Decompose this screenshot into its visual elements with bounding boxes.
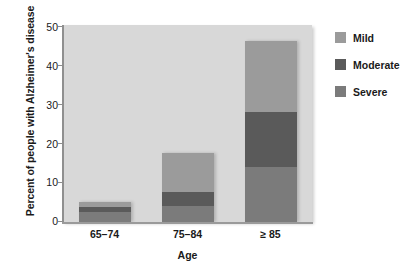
bar-segment-mild: [245, 41, 297, 112]
y-tick-label-50: 50: [36, 22, 58, 32]
bar-65-74: [79, 202, 131, 222]
legend-item-mild: Mild: [335, 26, 400, 49]
legend-item-severe: Severe: [335, 80, 400, 103]
bar-segment-mild: [162, 153, 214, 192]
bar-segment-moderate: [79, 207, 131, 212]
legend-label-mild: Mild: [353, 32, 374, 44]
y-tick-label-40: 40: [36, 61, 58, 71]
x-tick-label-75-84: 75–84: [146, 228, 229, 240]
bar-segment-severe: [162, 206, 214, 222]
bar-segment-moderate: [245, 112, 297, 167]
legend-label-moderate: Moderate: [353, 59, 400, 71]
legend-item-moderate: Moderate: [335, 53, 400, 76]
x-axis-line: [62, 222, 313, 224]
plot-area: [63, 25, 312, 222]
y-tick-label-10: 10: [36, 177, 58, 187]
y-axis-line: [62, 25, 64, 223]
bar-85: [245, 41, 297, 222]
bar-segment-mild: [79, 202, 131, 207]
bar-75-84: [162, 153, 214, 222]
legend-swatch-mild: [335, 32, 346, 43]
x-axis-title: Age: [63, 249, 312, 261]
bars-layer: [63, 25, 312, 222]
x-tick-label-65-74: 65–74: [63, 228, 146, 240]
bar-segment-severe: [245, 167, 297, 222]
legend-swatch-severe: [335, 86, 346, 97]
y-tick-label-20: 20: [36, 139, 58, 149]
legend-swatch-moderate: [335, 59, 346, 70]
bar-segment-moderate: [162, 192, 214, 206]
y-tick-label-0: 0: [36, 216, 58, 226]
chart-figure: Percent of people with Alzheimer's disea…: [0, 0, 414, 269]
x-tick-label-85-plus: ≥ 85: [229, 228, 312, 240]
y-axis-ticks: 50 40 30 20 10 0: [30, 0, 58, 269]
y-tick-label-30: 30: [36, 100, 58, 110]
legend-label-severe: Severe: [353, 86, 387, 98]
bar-segment-severe: [79, 212, 131, 222]
legend: Mild Moderate Severe: [335, 26, 400, 107]
